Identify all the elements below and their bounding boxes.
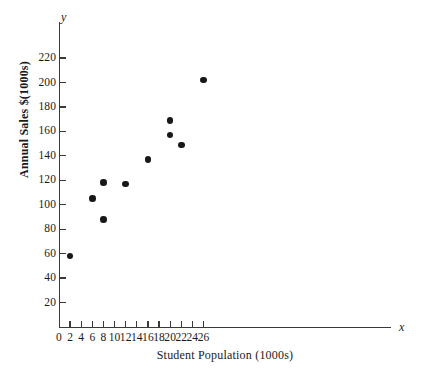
y-tick-label-wrap: 80	[14, 223, 56, 235]
y-tick	[60, 204, 66, 205]
y-tick	[60, 253, 66, 254]
x-tick	[181, 321, 182, 327]
x-tick	[103, 321, 104, 327]
y-tick	[60, 229, 66, 230]
y-tick	[60, 57, 66, 58]
y-tick-label: 80	[18, 223, 56, 235]
y-tick-label: 60	[18, 248, 56, 260]
x-tick	[158, 321, 159, 327]
data-point	[100, 179, 107, 186]
y-tick	[60, 155, 66, 156]
y-tick-label: 40	[18, 272, 56, 284]
y-tick-label: 100	[18, 199, 56, 211]
x-tick	[203, 321, 204, 327]
x-tick	[92, 321, 93, 327]
x-axis-title: Student Population (1000s)	[59, 348, 391, 363]
y-axis-title: Annual Sales $(1000s)	[17, 50, 32, 190]
data-point	[100, 216, 107, 223]
scatter-plot: y x 20406080100120140160180200220 024681…	[0, 0, 423, 378]
x-tick-label: 26	[190, 331, 216, 343]
data-point	[167, 117, 174, 124]
data-point	[145, 156, 152, 163]
y-axis-letter: y	[61, 10, 66, 25]
y-axis-line	[59, 22, 60, 328]
y-tick-label-wrap: 40	[14, 272, 56, 284]
y-tick	[60, 131, 66, 132]
data-point	[67, 253, 74, 260]
x-tick	[136, 321, 137, 327]
x-tick	[69, 321, 70, 327]
x-tick	[170, 321, 171, 327]
y-tick	[60, 106, 66, 107]
y-tick	[60, 277, 66, 278]
y-tick-label-wrap: 60	[14, 248, 56, 260]
data-point	[89, 195, 96, 202]
data-point	[122, 181, 129, 188]
y-tick-label-wrap: 20	[14, 297, 56, 309]
y-tick	[60, 302, 66, 303]
x-tick	[125, 321, 126, 327]
data-point	[167, 132, 174, 139]
x-tick	[81, 321, 82, 327]
x-axis-line	[59, 327, 391, 328]
x-tick	[114, 321, 115, 327]
x-tick	[147, 321, 148, 327]
data-point	[178, 142, 185, 149]
x-tick	[192, 321, 193, 327]
y-tick-label-wrap: 100	[14, 199, 56, 211]
y-tick	[60, 82, 66, 83]
y-tick-label: 20	[18, 297, 56, 309]
data-point	[200, 77, 207, 84]
x-axis-letter: x	[399, 320, 404, 335]
y-tick	[60, 180, 66, 181]
